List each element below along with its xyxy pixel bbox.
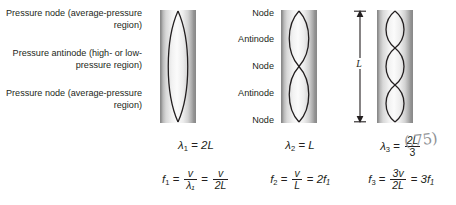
fraction-numerator-1b: v [213, 168, 229, 179]
fraction-numerator-1: v [184, 168, 196, 179]
antinode-label-2: Antinode [212, 88, 274, 99]
node-antinode-labels: Node Antinode Node Antinode Node [212, 8, 274, 126]
wavelength-formula-2: λ2 = L [254, 139, 346, 153]
length-label: L [351, 58, 367, 69]
lambda-value-1: 2L [201, 139, 214, 151]
equals-sign-2: = [298, 139, 305, 151]
label-pressure-node-bottom: Pressure node (average-pressure region) [0, 88, 142, 111]
antinode-label-1: Antinode [212, 34, 274, 45]
frequency-formula-1: f1 = v λ₁ = v 2L [150, 168, 242, 191]
tube-harmonic-1 [160, 10, 196, 123]
lambda-subscript-1: 1 [184, 144, 188, 153]
standing-wave-curve-2 [282, 10, 316, 123]
lambda-value-2: L [308, 139, 314, 151]
fraction-v-over-2L: v 2L [213, 168, 229, 191]
lambda-subscript-2: 2 [291, 144, 295, 153]
tube-harmonic-2 [281, 10, 317, 123]
frequency-result-3: 3f₁ [421, 173, 434, 185]
standing-wave-curve-1 [161, 10, 195, 123]
pressure-region-labels: Pressure node (average-pressure region) … [0, 6, 146, 130]
fraction-denominator-2: L [292, 179, 302, 191]
f-subscript-3: 3 [371, 178, 375, 187]
standing-wave-curve-3 [378, 10, 412, 123]
node-label-2: Node [212, 61, 274, 72]
node-label-1: Node [212, 8, 274, 19]
equals-sign-3b: = [411, 173, 418, 185]
label-pressure-node-top: Pressure node (average-pressure region) [0, 8, 142, 31]
fraction-denominator-1b: 2L [213, 179, 229, 191]
fraction-v-over-lambda1: v λ₁ [184, 168, 196, 191]
equals-sign-1b: = [201, 173, 208, 185]
frequency-result-2: 2f₁ [317, 173, 330, 185]
wavelength-formula-1: λ1 = 2L [150, 139, 242, 153]
fraction-denominator-3b: 2L [390, 179, 406, 191]
lambda-subscript-3: 3 [386, 145, 390, 154]
equals-sign-2a: = [281, 173, 288, 185]
f-subscript-2: 2 [273, 178, 277, 187]
tube-harmonic-3 [377, 10, 413, 123]
equals-sign-3a: = [379, 173, 386, 185]
label-pressure-antinode: Pressure antinode (high- or low-pressure… [0, 48, 142, 71]
equals-sign-1: = [191, 139, 198, 151]
fraction-numerator-3b: 3v [390, 168, 406, 179]
node-label-3: Node [212, 115, 274, 126]
fraction-v-over-L: v L [292, 168, 302, 191]
frequency-formula-3: f3 = 3v 2L = 3f₁ [355, 168, 447, 191]
f-subscript-1: 1 [165, 178, 169, 187]
diagram-canvas: Pressure node (average-pressure region) … [0, 0, 456, 205]
equals-sign-3: = [393, 140, 400, 152]
fraction-numerator-2: v [292, 168, 302, 179]
equals-sign-2b: = [307, 173, 314, 185]
fraction-3v-over-2L: 3v 2L [390, 168, 406, 191]
equals-sign-1a: = [173, 173, 180, 185]
fraction-denominator-1: λ₁ [184, 179, 196, 191]
length-marker-L: L [352, 10, 368, 123]
frequency-formula-2: f2 = v L = 2f₁ [254, 168, 346, 191]
